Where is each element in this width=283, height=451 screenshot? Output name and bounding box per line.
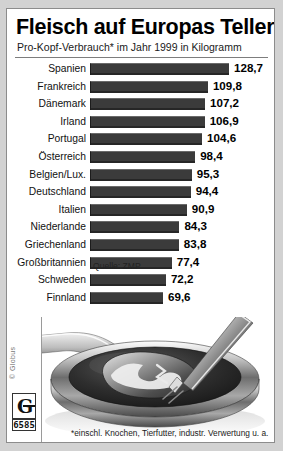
bar	[90, 274, 166, 286]
value-label: 95,3	[197, 167, 220, 181]
bar	[90, 151, 195, 163]
bar	[90, 239, 179, 251]
bar	[90, 81, 208, 93]
value-label: 106,9	[210, 114, 239, 128]
chart-row: Portugal104,6	[7, 131, 275, 149]
source-label: Quelle: ZMP	[93, 261, 141, 271]
bar	[90, 186, 191, 198]
frying-pan-icon	[7, 317, 275, 443]
category-label: Spanien	[7, 62, 86, 76]
page-subtitle: Pro-Kopf-Verbrauch* im Jahr 1999 in Kilo…	[17, 41, 267, 54]
category-label: Portugal	[7, 132, 86, 146]
copyright-text: © Globus	[9, 365, 71, 379]
infographic-poster: Fleisch auf Europas Tellern Pro-Kopf-Ver…	[0, 0, 283, 451]
bar	[90, 116, 205, 128]
chart-row: Irland106,9	[7, 114, 275, 132]
value-label: 77,4	[177, 255, 200, 269]
category-label: Dänemark	[7, 97, 86, 111]
value-label: 69,6	[168, 290, 191, 304]
value-label: 94,4	[196, 184, 219, 198]
value-label: 90,9	[192, 202, 215, 216]
chart-row: Dänemark107,2	[7, 96, 275, 114]
value-label: 98,4	[200, 149, 223, 163]
bar	[90, 292, 163, 304]
category-label: Finnland	[7, 291, 86, 305]
value-label: 104,6	[207, 131, 236, 145]
value-label: 128,7	[234, 61, 263, 75]
category-label: Deutschland	[7, 185, 86, 199]
value-label: 109,8	[213, 79, 242, 93]
bar	[90, 204, 187, 216]
chart-row: Deutschland94,4	[7, 184, 275, 202]
chart-row: Belgien/Lux.95,3	[7, 167, 275, 185]
bar	[90, 169, 192, 181]
chart-row: Frankreich109,8	[7, 79, 275, 97]
category-label: Niederlande	[7, 220, 86, 234]
bar-chart: Spanien128,7Frankreich109,8Dänemark107,2…	[7, 61, 275, 319]
frying-pan-illustration	[7, 317, 275, 443]
globus-logo-icon: G	[12, 393, 36, 419]
page-title: Fleisch auf Europas Tellern	[16, 15, 268, 39]
chart-row: Spanien128,7	[7, 61, 275, 79]
category-label: Frankreich	[7, 80, 86, 94]
category-label: Österreich	[7, 150, 86, 164]
value-label: 72,2	[171, 272, 194, 286]
header-divider	[15, 57, 268, 58]
globus-logo-bar	[23, 405, 35, 407]
value-label: 107,2	[210, 96, 239, 110]
globus-chart-number: 6585	[12, 419, 36, 431]
category-label: Schweden	[7, 273, 86, 287]
category-label: Italien	[7, 203, 86, 217]
chart-row: Finnland69,6	[7, 290, 275, 308]
category-label: Griechenland	[7, 238, 86, 252]
publisher-logo-column: © Globus G 6585	[7, 317, 42, 443]
chart-row: Italien90,9	[7, 202, 275, 220]
category-label: Irland	[7, 115, 86, 129]
bar	[90, 63, 229, 75]
bar	[90, 133, 202, 145]
category-label: Belgien/Lux.	[7, 168, 86, 182]
value-label: 83,8	[184, 237, 207, 251]
poster-frame: Fleisch auf Europas Tellern Pro-Kopf-Ver…	[6, 8, 275, 443]
chart-row: Griechenland83,8	[7, 237, 275, 255]
value-label: 84,3	[184, 219, 207, 233]
chart-row: Großbritannien77,4	[7, 255, 275, 273]
chart-row: Schweden72,2	[7, 272, 275, 290]
bar	[90, 221, 179, 233]
chart-row: Österreich98,4	[7, 149, 275, 167]
category-label: Großbritannien	[7, 256, 86, 270]
chart-row: Niederlande84,3	[7, 219, 275, 237]
bar	[90, 98, 205, 110]
footnote: *einschl. Knochen, Tierfutter, industr. …	[71, 428, 271, 438]
